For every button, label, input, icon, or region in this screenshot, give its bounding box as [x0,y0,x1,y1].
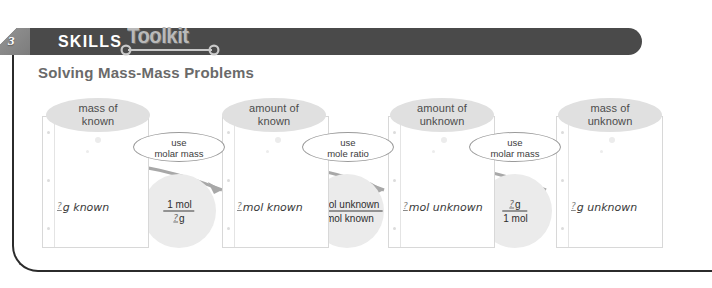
hole-punch [393,179,396,182]
step-label-3: amount of unknown [390,98,494,132]
step-card-4-value: ?g unknown [571,201,657,214]
operation-oval-3-line1: use [507,137,522,148]
factor-circle-1: 1 mol ?g [142,174,216,248]
step-card-1-value: ?g known [57,201,143,214]
step-label-2-line2: known [258,115,290,127]
chapter-number: 3 [8,33,15,49]
step-card-2: ?mol known [222,116,329,248]
paper-speck [266,150,269,153]
fraction-3: ?g 1 mol [502,199,527,224]
fraction-1: 1 mol ?g [163,199,194,224]
card-margin-line [54,117,55,247]
wrench-icon [120,44,220,56]
fraction-1-numerator: 1 mol [163,199,194,212]
hole-punch [47,179,50,182]
operation-oval-1: use molar mass [133,132,225,162]
hole-punch [393,131,396,134]
operation-oval-2: use mole ratio [302,132,394,162]
paper-speck [609,137,615,143]
hole-punch [561,179,564,182]
step-card-3-value: ?mol unknown [403,201,489,214]
operation-oval-1-line1: use [171,137,186,148]
paper-speck [86,150,89,153]
step-label-3-line1: amount of [417,102,467,114]
operation-oval-2-line2: mole ratio [327,148,369,159]
fraction-1-denominator: ?g [163,212,194,224]
fraction-3-numerator: ?g [502,199,527,212]
hole-punch [227,227,230,230]
step-card-4: ?g unknown [556,116,663,248]
paper-speck [432,150,435,153]
operation-oval-3: use molar mass [469,132,561,162]
paper-speck [600,150,603,153]
hole-punch [227,131,230,134]
skills-wordmark: SKILLS [58,33,122,51]
card-margin-line [400,117,401,247]
step-label-1-line1: mass of [78,102,117,114]
operation-oval-2-line1: use [340,137,355,148]
step-card-1: ?g known [42,116,149,248]
page-title: Solving Mass-Mass Problems [38,64,254,81]
step-card-2-value: ?mol known [237,201,323,214]
hole-punch [47,131,50,134]
card-margin-line [234,117,235,247]
flowchart-stage: 1 mol ?g ?mol unknown ?mol known ?g 1 mo… [0,98,670,258]
chapter-corner-tab [0,28,30,55]
hole-punch [47,227,50,230]
top-cut-text [190,2,490,10]
step-label-4: mass of unknown [558,98,662,132]
hole-punch [561,131,564,134]
step-label-1: mass of known [46,98,150,132]
operation-oval-1-line2: molar mass [154,148,203,159]
step-label-2: amount of known [222,98,326,132]
fraction-3-denominator: 1 mol [502,212,527,224]
paper-speck [275,137,281,143]
paper-speck [95,137,101,143]
step-label-2-line1: amount of [249,102,299,114]
hole-punch [227,179,230,182]
step-label-3-line2: unknown [420,115,465,127]
step-label-1-line2: known [82,115,114,127]
step-label-4-line1: mass of [590,102,629,114]
step-card-3: ?mol unknown [388,116,495,248]
hole-punch [561,227,564,230]
operation-oval-3-line2: molar mass [490,148,539,159]
card-margin-line [568,117,569,247]
hole-punch [393,227,396,230]
step-label-4-line2: unknown [588,115,633,127]
paper-speck [441,137,447,143]
